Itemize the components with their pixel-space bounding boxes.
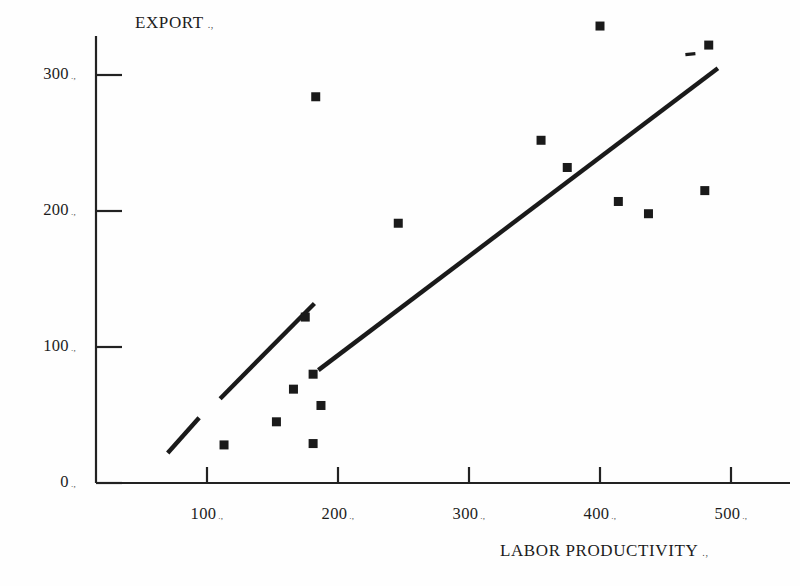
y-axis-title-text: EXPORT [135,13,204,32]
trend-line-dash-mark [685,54,695,55]
data-point-marker [272,417,281,426]
y-axis-title: EXPORT., [135,13,214,33]
data-point-marker [316,401,325,410]
trend-line-group [168,54,718,453]
x-tick-trailing: ., [609,511,616,521]
x-tick-value: 500 [715,504,741,523]
data-point-marker [311,92,320,101]
x-tick-trailing: ., [347,511,354,521]
data-point-marker [700,186,709,195]
y-tick-value: 0 [60,472,69,491]
x-tick-trailing: ., [216,511,223,521]
x-tick-label: 100., [162,504,252,524]
y-axis-title-trailing: ., [204,19,214,30]
data-point-marker [537,136,546,145]
y-tick-trailing: ., [69,207,76,217]
data-points-group [220,22,714,450]
y-tick-trailing: ., [69,343,76,353]
data-point-marker [309,439,318,448]
trend-line-segment [168,418,199,453]
x-tick-value: 300 [453,504,479,523]
y-tick-trailing: ., [69,479,76,489]
scatter-plot-figure: EXPORT., LABOR PRODUCTIVITY., 0.,100.,20… [0,0,800,586]
x-tick-trailing: ., [740,511,747,521]
y-tick-value: 200 [43,200,69,219]
x-tick-value: 200 [322,504,348,523]
axes-group [96,36,790,483]
x-tick-label: 500., [686,504,776,524]
data-point-marker [563,163,572,172]
x-tick-label: 300., [424,504,514,524]
x-axis-title-text: LABOR PRODUCTIVITY [500,541,698,560]
x-tick-value: 400 [584,504,610,523]
data-point-marker [614,197,623,206]
x-tick-label: 200., [293,504,383,524]
data-point-marker [220,440,229,449]
data-point-marker [704,41,713,50]
x-axis-title: LABOR PRODUCTIVITY., [500,541,708,561]
x-tick-value: 100 [191,504,217,523]
y-tick-label: 100., [0,336,76,356]
data-point-marker [394,219,403,228]
y-tick-value: 100 [43,336,69,355]
data-point-marker [301,313,310,322]
trend-line-segment [220,303,314,398]
x-tick-trailing: ., [478,511,485,521]
plot-canvas [0,0,800,586]
y-tick-value: 300 [43,64,69,83]
data-point-marker [309,370,318,379]
x-axis-title-trailing: ., [698,547,708,558]
y-tick-trailing: ., [69,71,76,81]
data-point-marker [596,22,605,31]
data-point-marker [644,209,653,218]
trend-line-segment [318,68,718,370]
y-tick-label: 200., [0,200,76,220]
y-tick-label: 0., [0,472,76,492]
y-tick-label: 300., [0,64,76,84]
data-point-marker [289,385,298,394]
x-tick-label: 400., [555,504,645,524]
